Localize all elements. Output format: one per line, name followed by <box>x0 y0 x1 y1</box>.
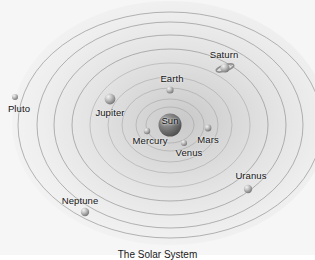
planet-neptune[interactable] <box>81 208 89 216</box>
uranus-sphere-icon <box>244 185 252 193</box>
mars-sphere-icon <box>205 125 212 132</box>
planet-venus[interactable] <box>181 140 187 146</box>
label-pluto: Pluto <box>8 104 30 114</box>
neptune-sphere-icon <box>81 208 89 216</box>
planet-mercury[interactable] <box>144 128 150 134</box>
jupiter-sphere-icon <box>105 94 116 105</box>
planet-mars[interactable] <box>205 125 212 132</box>
label-earth: Earth <box>160 74 183 84</box>
label-sun: Sun <box>161 116 178 126</box>
label-mars: Mars <box>197 135 219 145</box>
label-jupiter: Jupiter <box>95 108 124 118</box>
label-saturn: Saturn <box>210 50 239 60</box>
planet-pluto[interactable] <box>12 94 18 100</box>
planet-earth[interactable] <box>166 86 173 93</box>
mercury-sphere-icon <box>144 128 150 134</box>
planet-uranus[interactable] <box>244 185 252 193</box>
earth-sphere-icon <box>166 86 173 93</box>
label-mercury: Mercury <box>132 136 167 146</box>
label-neptune: Neptune <box>62 196 99 206</box>
label-uranus: Uranus <box>235 171 266 181</box>
label-venus: Venus <box>176 148 203 158</box>
saturn-sphere-icon <box>220 63 229 72</box>
venus-sphere-icon <box>181 140 187 146</box>
planet-jupiter[interactable] <box>105 94 116 105</box>
diagram-caption: The Solar System <box>118 249 197 260</box>
pluto-sphere-icon <box>12 94 18 100</box>
